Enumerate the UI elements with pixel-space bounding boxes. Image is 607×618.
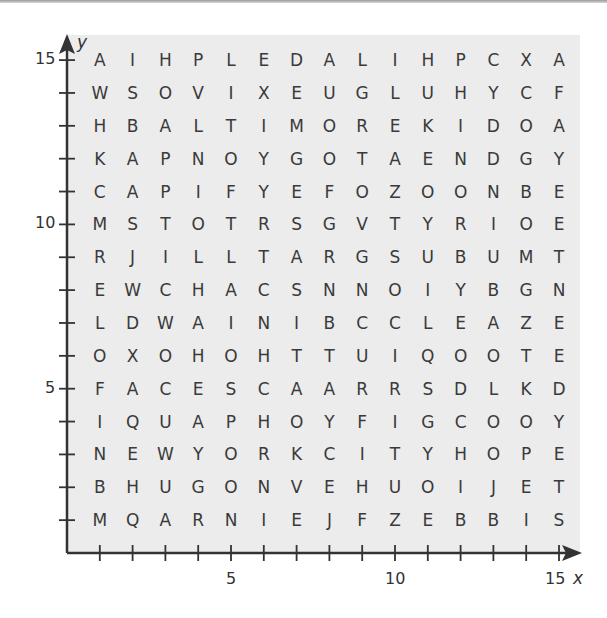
grid-letter: L	[216, 45, 246, 75]
grid-letter: T	[282, 341, 312, 371]
grid-letter: H	[183, 341, 213, 371]
grid-letter: H	[249, 341, 279, 371]
x-tick-label: 10	[385, 570, 405, 588]
grid-letter: P	[446, 45, 476, 75]
grid-letter: X	[118, 341, 148, 371]
grid-letter: F	[314, 177, 344, 207]
grid-letter: T	[216, 111, 246, 141]
grid-letter: O	[216, 144, 246, 174]
grid-letter: I	[216, 308, 246, 338]
grid-letter: E	[249, 45, 279, 75]
grid-letter: E	[413, 144, 443, 174]
grid-letter: F	[216, 177, 246, 207]
grid-letter: B	[446, 242, 476, 272]
grid-letter: R	[380, 374, 410, 404]
grid-letter: A	[183, 308, 213, 338]
grid-letter: O	[216, 472, 246, 502]
grid-letter: O	[478, 341, 508, 371]
grid-letter: A	[118, 374, 148, 404]
grid-letter: C	[380, 308, 410, 338]
grid-letter: C	[150, 275, 180, 305]
grid-letter: G	[347, 78, 377, 108]
grid-letter: D	[478, 111, 508, 141]
grid-letter: W	[150, 308, 180, 338]
x-tick-label: 15	[545, 570, 565, 588]
grid-letter: K	[85, 144, 115, 174]
grid-letter: I	[249, 111, 279, 141]
grid-letter: H	[446, 78, 476, 108]
grid-letter: D	[282, 45, 312, 75]
grid-letter: O	[380, 275, 410, 305]
grid-letter: O	[446, 177, 476, 207]
grid-letter: R	[347, 111, 377, 141]
grid-letter: V	[282, 472, 312, 502]
grid-letter: O	[347, 177, 377, 207]
grid-letter: H	[249, 407, 279, 437]
grid-letter: O	[282, 407, 312, 437]
grid-letter: U	[380, 472, 410, 502]
grid-letter: R	[85, 242, 115, 272]
grid-letter: Y	[249, 144, 279, 174]
grid-letter: I	[380, 45, 410, 75]
grid-letter: B	[118, 111, 148, 141]
grid-letter: K	[282, 439, 312, 469]
grid-letter: O	[183, 209, 213, 239]
grid-letter: S	[118, 209, 148, 239]
grid-letter: B	[446, 505, 476, 535]
grid-letter: L	[413, 308, 443, 338]
grid-letter: E	[511, 472, 541, 502]
grid-letter: I	[347, 439, 377, 469]
grid-letter: O	[150, 78, 180, 108]
grid-letter: C	[478, 45, 508, 75]
grid-letter: A	[183, 407, 213, 437]
grid-letter: G	[413, 407, 443, 437]
grid-letter: A	[478, 308, 508, 338]
grid-letter: L	[347, 45, 377, 75]
grid-letter: F	[544, 78, 574, 108]
grid-letter: L	[183, 111, 213, 141]
grid-letter: O	[216, 439, 246, 469]
grid-letter: Y	[544, 407, 574, 437]
y-tick-label: 15	[35, 50, 55, 68]
grid-letter: T	[150, 209, 180, 239]
grid-letter: R	[249, 439, 279, 469]
grid-letter: O	[85, 341, 115, 371]
grid-letter: N	[544, 275, 574, 305]
grid-letter: U	[150, 472, 180, 502]
grid-letter: M	[85, 209, 115, 239]
grid-letter: N	[216, 505, 246, 535]
grid-letter: O	[511, 111, 541, 141]
grid-letter: I	[446, 111, 476, 141]
grid-letter: W	[118, 275, 148, 305]
grid-letter: I	[118, 45, 148, 75]
grid-letter: H	[347, 472, 377, 502]
grid-letter: H	[183, 275, 213, 305]
grid-letter: E	[118, 439, 148, 469]
grid-letter: T	[347, 144, 377, 174]
grid-letter: E	[282, 78, 312, 108]
grid-letter: C	[249, 374, 279, 404]
grid-letter: V	[183, 78, 213, 108]
grid-letter: B	[85, 472, 115, 502]
grid-letter: C	[249, 275, 279, 305]
grid-letter: G	[511, 275, 541, 305]
x-tick-label: 5	[226, 570, 236, 588]
grid-letter: A	[118, 177, 148, 207]
grid-letter: R	[183, 505, 213, 535]
grid-letter: W	[150, 439, 180, 469]
grid-letter: I	[216, 78, 246, 108]
grid-letter: B	[314, 308, 344, 338]
grid-letter: N	[85, 439, 115, 469]
grid-letter: Y	[183, 439, 213, 469]
grid-letter: L	[380, 78, 410, 108]
grid-letter: O	[446, 341, 476, 371]
grid-letter: U	[478, 242, 508, 272]
grid-letter: Y	[249, 177, 279, 207]
grid-letter: Z	[380, 177, 410, 207]
grid-letter: G	[314, 209, 344, 239]
grid-letter: N	[183, 144, 213, 174]
grid-letter: O	[314, 144, 344, 174]
grid-letter: E	[544, 341, 574, 371]
grid-letter: B	[478, 505, 508, 535]
grid-letter: I	[380, 407, 410, 437]
